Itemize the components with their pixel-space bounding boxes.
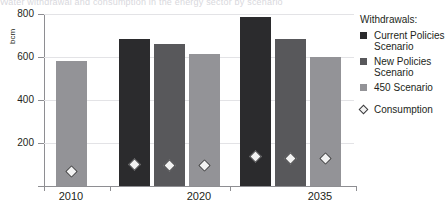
chart-legend: Withdrawals: Current Policies ScenarioNe… — [360, 14, 447, 119]
x-axis-group-label: 2010 — [41, 190, 101, 202]
cropped-title-remnant: Water withdrawal and consumption in the … — [0, 0, 447, 7]
x-axis-group-label: 2035 — [290, 190, 350, 202]
legend-title: Withdrawals: — [360, 14, 447, 26]
legend-swatch-current-policies-icon — [360, 32, 367, 39]
legend-item-label: Consumption — [374, 104, 433, 115]
legend-items: Current Policies ScenarioNew Policies Sc… — [360, 30, 447, 94]
legend-swatch-new-policies-icon — [360, 58, 367, 65]
legend-item: Current Policies Scenario — [360, 30, 447, 53]
x-axis-separator-tick — [110, 186, 111, 191]
x-axis-group-label: 2020 — [169, 190, 229, 202]
x-axis-separator-tick — [44, 186, 45, 191]
y-tick-label: 600 — [0, 52, 34, 62]
diamond-icon — [359, 105, 369, 115]
x-axis-separator-tick — [356, 186, 357, 191]
x-axis-line — [38, 186, 356, 187]
legend-item-consumption: Consumption — [360, 104, 447, 116]
legend-item-label: New Policies Scenario — [374, 56, 431, 79]
legend-item: New Policies Scenario — [360, 56, 447, 79]
y-tick-label: 800 — [0, 9, 34, 19]
y-axis-label: bcm — [8, 17, 17, 57]
x-axis-separator-tick — [230, 186, 231, 191]
plot-area — [44, 14, 354, 186]
cropped-title-text: Water withdrawal and consumption in the … — [0, 0, 283, 7]
y-tick-label: 400 — [0, 95, 34, 105]
gridline — [44, 14, 354, 15]
bar — [310, 57, 341, 186]
legend-swatch-450-icon — [360, 84, 367, 91]
y-tick-label: 200 — [0, 138, 34, 148]
legend-item-label: 450 Scenario — [374, 82, 433, 93]
chart-figure: Water withdrawal and consumption in the … — [0, 0, 447, 210]
legend-item-label: Current Policies Scenario — [374, 30, 445, 53]
legend-item: 450 Scenario — [360, 82, 447, 94]
